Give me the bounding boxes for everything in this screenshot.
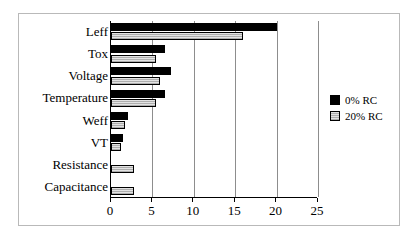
category-label-resistance: Resistance	[52, 154, 108, 176]
x-tick-label-10: 10	[186, 203, 199, 219]
category-label-tox: Tox	[88, 43, 108, 65]
category-label-capacitance: Capacitance	[44, 176, 108, 198]
x-tickmark-10	[192, 198, 193, 202]
x-tick-label-25: 25	[311, 203, 324, 219]
bar-leff-series-1	[111, 32, 243, 40]
bar-rows: LeffToxVoltageTemperatureWeffVTResistanc…	[111, 21, 317, 197]
category-label-voltage: Voltage	[69, 65, 108, 87]
category-label-leff: Leff	[86, 21, 108, 43]
bar-temperature-series-1	[111, 99, 156, 107]
bar-weff-series-1	[111, 121, 125, 129]
bar-group: VT	[111, 132, 317, 154]
bar-temperature-series-0	[111, 90, 165, 98]
legend-swatch-series-1	[330, 111, 340, 121]
x-tickmark-15	[234, 198, 235, 202]
category-label-temperature: Temperature	[43, 87, 109, 109]
bar-group: Temperature	[111, 87, 317, 109]
bar-tox-series-1	[111, 55, 156, 63]
category-label-weff: Weff	[83, 110, 108, 132]
legend-item-0: 0% RC	[330, 93, 383, 107]
legend-swatch-series-0	[330, 95, 340, 105]
bar-vt-series-1	[111, 143, 121, 151]
chart-figure: LeffToxVoltageTemperatureWeffVTResistanc…	[0, 0, 419, 240]
legend-label-series-0: 0% RC	[345, 94, 377, 106]
bar-resistance-series-1	[111, 165, 134, 173]
legend-item-1: 20% RC	[330, 109, 383, 123]
x-tickmark-25	[317, 198, 318, 202]
chart-legend: 0% RC 20% RC	[330, 93, 383, 125]
bar-voltage-series-1	[111, 77, 160, 85]
bar-tox-series-0	[111, 45, 165, 53]
bar-group: Resistance	[111, 154, 317, 176]
plot-area: LeffToxVoltageTemperatureWeffVTResistanc…	[110, 21, 317, 198]
bar-group: Capacitance	[111, 176, 317, 198]
bar-weff-series-0	[111, 112, 128, 120]
x-tick-label-20: 20	[269, 203, 282, 219]
bar-group: Leff	[111, 21, 317, 43]
category-label-vt: VT	[91, 132, 108, 154]
bar-vt-series-0	[111, 134, 123, 142]
x-tick-label-5: 5	[148, 203, 155, 219]
bar-group: Weff	[111, 110, 317, 132]
bar-capacitance-series-1	[111, 187, 134, 195]
legend-label-series-1: 20% RC	[345, 110, 383, 122]
bar-group: Tox	[111, 43, 317, 65]
gridline-25	[318, 21, 319, 197]
bar-group: Voltage	[111, 65, 317, 87]
x-tickmark-0	[110, 198, 111, 202]
x-tick-label-15: 15	[228, 203, 241, 219]
x-tick-label-0: 0	[107, 203, 114, 219]
bar-leff-series-0	[111, 23, 277, 31]
bar-voltage-series-0	[111, 67, 171, 75]
x-tickmark-20	[275, 198, 276, 202]
x-tickmark-5	[151, 198, 152, 202]
